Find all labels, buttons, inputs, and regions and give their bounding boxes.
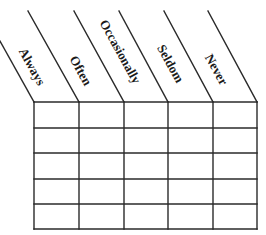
frequency-table-figure: Always Often Occasionally Seldom Never <box>0 0 266 235</box>
table-lines <box>0 0 266 235</box>
